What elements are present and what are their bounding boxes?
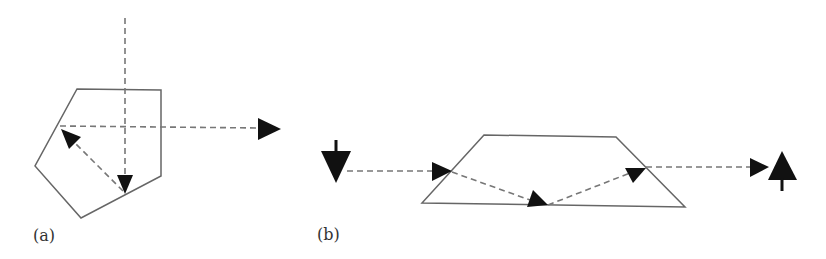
- arrowhead-up-right-icon: [625, 168, 646, 183]
- trapezoid-prism: [422, 135, 685, 207]
- arrowhead-right-exit-icon: [750, 158, 769, 177]
- output-arrow-up-icon: [768, 151, 797, 180]
- outgoing-horizontal-ray: [60, 126, 260, 128]
- refracted-ray-down: [452, 172, 530, 200]
- reflected-ray-up: [548, 173, 630, 205]
- pentagon-prism: [35, 89, 161, 218]
- panel-label-b: (b): [317, 225, 340, 244]
- optics-diagram: (a) (b): [0, 0, 826, 259]
- arrowhead-right-entry-icon: [432, 162, 452, 181]
- arrowhead-right-icon: [258, 118, 281, 140]
- internal-diagonal-ray: [70, 138, 123, 191]
- panel-a: (a): [33, 18, 281, 245]
- arrowhead-bottom-icon: [527, 190, 548, 207]
- panel-b: (b): [317, 135, 797, 244]
- input-arrow-down-icon: [321, 151, 351, 183]
- panel-label-a: (a): [33, 226, 55, 245]
